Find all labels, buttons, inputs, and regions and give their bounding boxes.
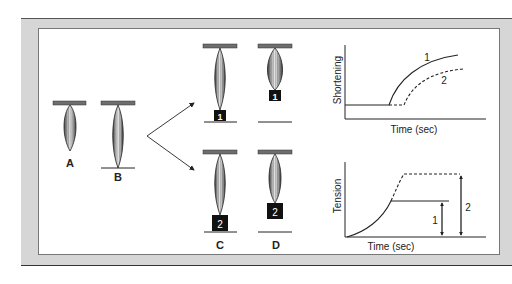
curve-2-label: 2 [441, 75, 447, 86]
load-1-label: 1 [217, 112, 222, 122]
muscle-b [101, 101, 135, 168]
muscle-d [258, 150, 292, 232]
branch-arrows [147, 103, 194, 170]
arrow-2-label: 2 [465, 202, 471, 213]
muscle-load1-before [203, 44, 237, 122]
tension-x-label: Time (sec) [368, 241, 415, 252]
muscle-load1-after [258, 44, 292, 122]
tension-y-label: Tension [332, 179, 343, 213]
shortening-y-label: Shortening [332, 56, 343, 104]
muscle-contraction-diagram: A B 1 1 2 C [0, 0, 512, 284]
load-2-lifted-label: 2 [272, 207, 278, 218]
shortening-chart: 1 2 Shortening Time (sec) [332, 45, 486, 135]
arrow-1-label: 1 [432, 215, 438, 226]
load-1-lifted-label: 1 [272, 92, 277, 102]
tension-chart: 1 2 Tension Time (sec) [332, 162, 486, 252]
label-a: A [66, 157, 74, 169]
label-d: D [272, 239, 280, 251]
label-b: B [114, 171, 122, 183]
curve-2 [389, 69, 463, 105]
shortening-x-label: Time (sec) [391, 124, 438, 135]
label-c: C [216, 239, 224, 251]
curve-2 [391, 174, 460, 201]
curve-1-label: 1 [424, 52, 430, 63]
load-2-label: 2 [217, 219, 223, 230]
muscle-a [53, 101, 86, 151]
